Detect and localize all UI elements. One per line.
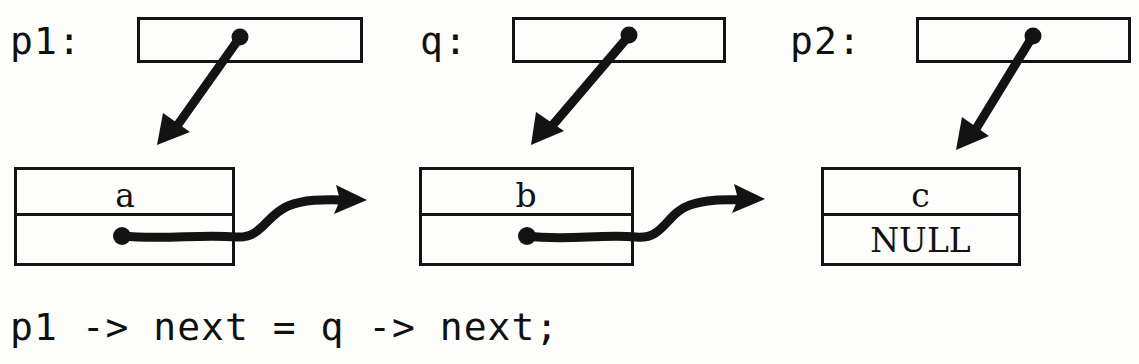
node-c-data-value: c [822, 179, 1019, 212]
pointer-arrow-shaft-p2 [971, 39, 1031, 137]
pointer-arrow-p1 [157, 29, 249, 146]
pointer-cell-p1 [139, 19, 362, 62]
pointer-label-q: q: [420, 22, 468, 60]
code-statement: p1 -> next = q -> next; [10, 308, 559, 346]
pointer-arrow-p2 [956, 28, 1042, 151]
pointer-label-p1: p1: [10, 22, 82, 60]
pointer-cell-q [514, 19, 725, 62]
pointer-box-p1 [139, 19, 362, 62]
pointer-arrow-q [531, 27, 638, 146]
pointer-box-q [514, 19, 725, 62]
pointer-label-p2: p2: [790, 22, 862, 60]
pointer-arrow-shaft-q [546, 38, 627, 133]
pointer-arrow-shaft-p1 [172, 40, 238, 133]
node-c-next-value: NULL [822, 224, 1019, 257]
node-b-data-value: b [420, 179, 632, 212]
node-a-data-value: a [15, 179, 235, 212]
